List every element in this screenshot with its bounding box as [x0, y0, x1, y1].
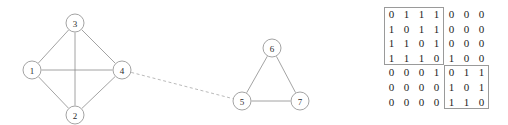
matrix-cell-6-6: 0 — [459, 80, 474, 95]
node-label-2: 2 — [73, 111, 78, 121]
matrix-cell-3-6: 0 — [459, 36, 474, 51]
graph-node-2[interactable]: 2 — [66, 106, 84, 124]
matrix-cell-1-7: 0 — [474, 7, 489, 22]
matrix-cell-3-4: 1 — [429, 36, 444, 51]
figure-root: 1234567 01110001011000110100011101000001… — [0, 0, 508, 125]
matrix-cell-5-5: 0 — [444, 65, 459, 80]
matrix-cell-2-5: 0 — [444, 22, 459, 37]
matrix-cell-3-7: 0 — [474, 36, 489, 51]
matrix-cell-6-7: 1 — [474, 80, 489, 95]
graph-edge-1-2 — [39, 77, 69, 108]
matrix-cell-7-4: 0 — [429, 95, 444, 110]
matrix-cell-7-7: 0 — [474, 95, 489, 110]
matrix-cell-5-4: 1 — [429, 65, 444, 80]
matrix-cell-1-4: 1 — [429, 7, 444, 22]
matrix-cell-1-6: 0 — [459, 7, 474, 22]
matrix-cell-2-1: 1 — [384, 22, 399, 37]
node-label-4: 4 — [120, 66, 125, 76]
matrix-row: 1011000 — [384, 22, 489, 37]
matrix-cell-2-7: 0 — [474, 22, 489, 37]
matrix-cell-1-5: 0 — [444, 7, 459, 22]
matrix-cell-2-4: 1 — [429, 22, 444, 37]
graph-node-5[interactable]: 5 — [233, 92, 251, 110]
matrix-cell-6-2: 0 — [399, 80, 414, 95]
matrix-cell-5-1: 0 — [384, 65, 399, 80]
matrix-cell-3-2: 1 — [399, 36, 414, 51]
matrix-cell-1-2: 1 — [399, 7, 414, 22]
graph-node-3[interactable]: 3 — [66, 14, 84, 32]
matrix-cell-6-1: 0 — [384, 80, 399, 95]
node-label-6: 6 — [270, 44, 275, 54]
graph-node-4[interactable]: 4 — [113, 61, 131, 79]
matrix-cell-4-5: 1 — [444, 51, 459, 66]
node-label-1: 1 — [30, 66, 35, 76]
matrix-cell-1-3: 1 — [414, 7, 429, 22]
graph-node-6[interactable]: 6 — [263, 39, 281, 57]
node-label-3: 3 — [73, 19, 78, 29]
matrix-cell-7-3: 0 — [414, 95, 429, 110]
graph-edge-5-6 — [247, 56, 268, 92]
matrix-cell-7-2: 0 — [399, 95, 414, 110]
matrix-cell-7-5: 1 — [444, 95, 459, 110]
graph-edge-4-5 — [131, 72, 233, 98]
matrix-cell-3-1: 1 — [384, 36, 399, 51]
graph-node-7[interactable]: 7 — [291, 92, 309, 110]
graph-diagram: 1234567 — [0, 0, 360, 125]
matrix-row: 1101000 — [384, 36, 489, 51]
adjacency-matrix: 0111000101100011010001110100000101100001… — [382, 0, 508, 125]
matrix-row: 0111000 — [384, 7, 489, 22]
matrix-cell-4-4: 0 — [429, 51, 444, 66]
graph-edge-1-3 — [38, 30, 68, 63]
node-layer: 1234567 — [23, 14, 309, 124]
node-label-7: 7 — [298, 97, 303, 107]
matrix-cell-3-5: 0 — [444, 36, 459, 51]
graph-edge-6-7 — [276, 56, 295, 92]
matrix-cell-4-2: 1 — [399, 51, 414, 66]
matrix-cell-5-3: 0 — [414, 65, 429, 80]
matrix-grid: 0111000101100011010001110100000101100001… — [384, 7, 489, 109]
matrix-cell-6-3: 0 — [414, 80, 429, 95]
matrix-cell-5-7: 1 — [474, 65, 489, 80]
matrix-cell-4-6: 0 — [459, 51, 474, 66]
matrix-cell-3-3: 0 — [414, 36, 429, 51]
matrix-cell-2-6: 0 — [459, 22, 474, 37]
matrix-cell-6-4: 0 — [429, 80, 444, 95]
matrix-cell-7-1: 0 — [384, 95, 399, 110]
node-label-5: 5 — [240, 97, 245, 107]
edge-layer — [38, 30, 295, 109]
graph-edge-3-4 — [82, 30, 116, 64]
matrix-cell-5-6: 1 — [459, 65, 474, 80]
matrix-cell-2-2: 0 — [399, 22, 414, 37]
matrix-cell-1-1: 0 — [384, 7, 399, 22]
matrix-cell-7-6: 1 — [459, 95, 474, 110]
matrix-cell-6-5: 1 — [444, 80, 459, 95]
matrix-row: 0001011 — [384, 65, 489, 80]
graph-canvas: 1234567 — [0, 0, 360, 125]
graph-edge-2-4 — [82, 77, 115, 109]
matrix-cell-4-7: 0 — [474, 51, 489, 66]
matrix-row: 1110100 — [384, 51, 489, 66]
matrix-row: 0000110 — [384, 95, 489, 110]
matrix-cell-4-3: 1 — [414, 51, 429, 66]
matrix-body: 0111000101100011010001110100000101100001… — [384, 7, 489, 109]
matrix-cell-2-3: 1 — [414, 22, 429, 37]
matrix-cell-5-2: 0 — [399, 65, 414, 80]
graph-node-1[interactable]: 1 — [23, 61, 41, 79]
matrix-cell-4-1: 1 — [384, 51, 399, 66]
matrix-row: 0000101 — [384, 80, 489, 95]
